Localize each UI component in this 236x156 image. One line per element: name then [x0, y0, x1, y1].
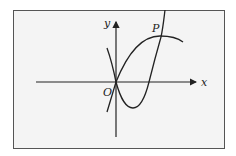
point-p-label: P — [151, 22, 160, 35]
origin-label: O — [103, 86, 112, 99]
y-axis-label: y — [103, 17, 111, 30]
downward-parabola-curve — [107, 36, 183, 112]
coordinate-diagram: y x O P — [0, 0, 236, 156]
x-axis-label: x — [201, 76, 208, 89]
